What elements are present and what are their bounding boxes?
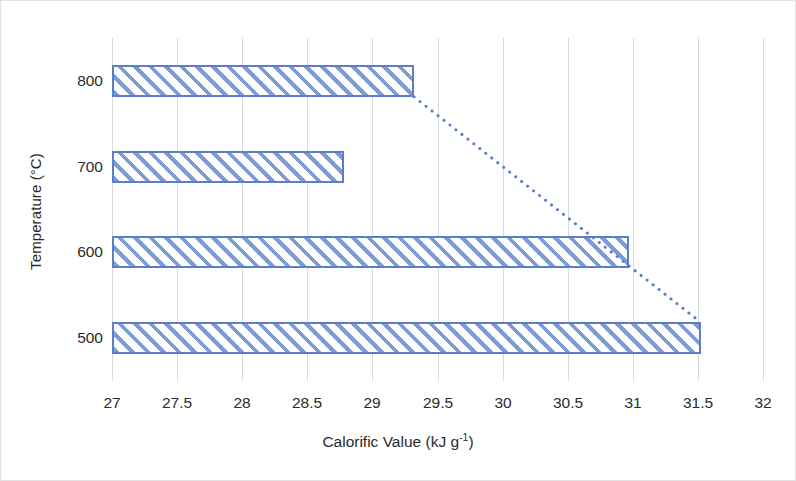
x-axis-title-base: Calorific Value (kJ g [322, 433, 459, 450]
x-tick-label: 27 [77, 394, 147, 412]
gridline [763, 38, 764, 381]
trendline-path [414, 97, 700, 322]
x-tick-label: 27.5 [142, 394, 212, 412]
bar [112, 236, 629, 268]
x-tick-label: 28.5 [272, 394, 342, 412]
y-tick-label: 600 [55, 243, 103, 261]
x-tick-label: 29.5 [403, 394, 473, 412]
y-tick-label: 500 [55, 329, 103, 347]
x-tick-label: 29 [337, 394, 407, 412]
chart-figure: Temperature (°C) 800700600500 2727.52828… [0, 0, 796, 481]
x-axis-title-tail: ) [468, 433, 473, 450]
y-tick-label: 700 [55, 158, 103, 176]
x-tick-label: 30 [468, 394, 538, 412]
bar [112, 65, 414, 97]
y-axis-title-text: Temperature (°C) [27, 153, 44, 270]
x-axis-tick-labels: 2727.52828.52929.53030.53131.532 [112, 394, 763, 420]
x-tick-label: 28 [207, 394, 277, 412]
plot-area [112, 38, 763, 381]
x-tick-label: 32 [728, 394, 796, 412]
x-tick-label: 30.5 [533, 394, 603, 412]
x-tick-label: 31 [598, 394, 668, 412]
bar [112, 151, 344, 183]
bar [112, 322, 701, 354]
x-axis-title: Calorific Value (kJ g-1) [1, 433, 795, 451]
y-tick-label: 800 [55, 72, 103, 90]
x-tick-label: 31.5 [663, 394, 733, 412]
